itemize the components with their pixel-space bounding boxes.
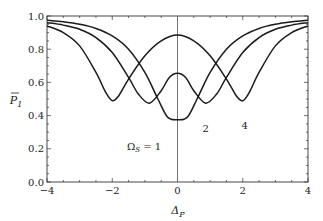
x-tick-label: −2 <box>105 185 120 196</box>
x-axis-label: ΔP <box>170 204 185 219</box>
x-tick-label: 4 <box>305 185 311 196</box>
y-axis-label: P1 <box>9 94 23 109</box>
y-tick-label: 0.2 <box>28 143 44 154</box>
curve-annotation: 4 <box>241 120 247 131</box>
y-tick-label: 1.0 <box>28 11 44 22</box>
y-tick-label: 0.0 <box>28 177 44 188</box>
chart: −4−20240.00.20.40.60.81.0 ΩS = 124 ΔP P1 <box>0 0 323 221</box>
y-tick-label: 0.8 <box>28 44 44 55</box>
curve-annotation: 2 <box>203 123 209 134</box>
curve-annotation: ΩS = 1 <box>127 141 161 154</box>
y-tick-label: 0.6 <box>28 77 44 88</box>
x-tick-label: 0 <box>174 185 180 196</box>
curve-annotations: ΩS = 124 <box>127 120 248 155</box>
y-tick-label: 0.4 <box>28 110 44 121</box>
x-tick-label: 2 <box>240 185 246 196</box>
